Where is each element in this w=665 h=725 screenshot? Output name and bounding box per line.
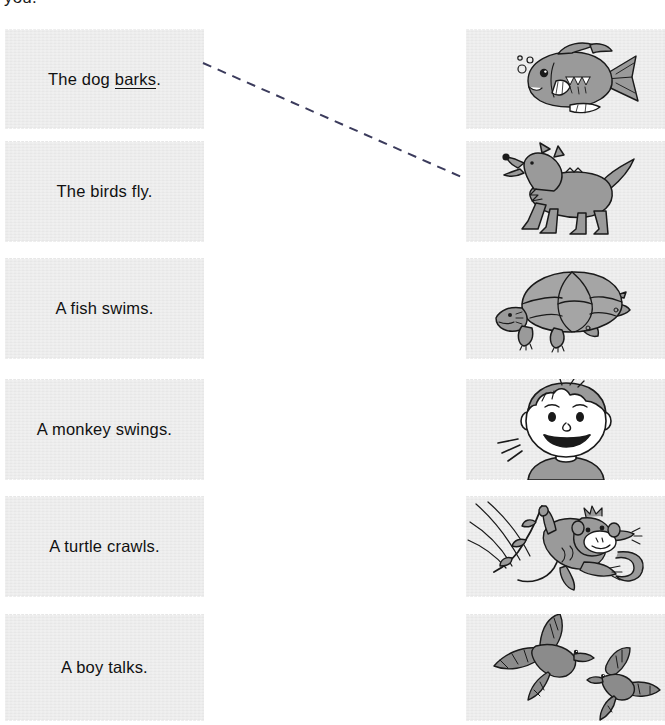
sentence-dog-after: .: [156, 70, 161, 88]
instruction-fragment-text: you.: [4, 0, 37, 8]
sentence-card-fish[interactable]: A fish swims.: [5, 258, 204, 359]
picture-card-dog[interactable]: [466, 141, 665, 242]
worksheet-canvas: you. The dog barks. The birds fly. A fis…: [0, 0, 665, 725]
sentence-text-monkey: A monkey swings.: [37, 420, 172, 439]
picture-card-turtle[interactable]: [466, 258, 665, 359]
sentence-card-turtle[interactable]: A turtle crawls.: [5, 496, 204, 597]
picture-card-birds[interactable]: [466, 614, 665, 721]
monkey-icon: [466, 496, 665, 597]
sentence-dog-underlined-word: barks: [115, 70, 156, 89]
sentence-card-dog[interactable]: The dog barks.: [5, 29, 204, 129]
sentence-text-birds: The birds fly.: [56, 182, 152, 201]
dog-icon: [466, 141, 665, 242]
turtle-icon: [466, 258, 665, 359]
sentence-card-birds[interactable]: The birds fly.: [5, 141, 204, 242]
sentence-card-monkey[interactable]: A monkey swings.: [5, 379, 204, 480]
match-line-dog-to-dog-picture[interactable]: [203, 63, 466, 179]
sentence-text-dog: The dog barks.: [48, 70, 161, 89]
sentence-text-boy: A boy talks.: [61, 658, 148, 677]
birds-icon: [466, 614, 665, 721]
picture-card-boy[interactable]: [466, 379, 665, 480]
fish-icon: [466, 29, 665, 129]
sentence-text-turtle: A turtle crawls.: [49, 537, 159, 556]
picture-card-fish[interactable]: [466, 29, 665, 129]
boy-icon: [466, 379, 665, 480]
sentence-dog-before: The dog: [48, 70, 115, 88]
sentence-card-boy[interactable]: A boy talks.: [5, 614, 204, 721]
sentence-text-fish: A fish swims.: [56, 299, 154, 318]
picture-card-monkey[interactable]: [466, 496, 665, 597]
